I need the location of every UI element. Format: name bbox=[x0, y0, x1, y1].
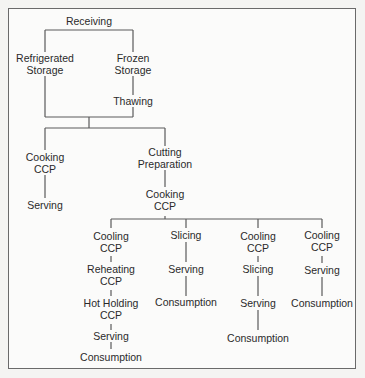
node-label: Storage bbox=[16, 64, 74, 76]
node-label: CCP bbox=[304, 241, 340, 253]
node-label: CCP bbox=[93, 242, 129, 254]
node-b3-cooling-ccp: Cooling CCP bbox=[239, 230, 277, 254]
node-label: Hot Holding bbox=[84, 297, 139, 309]
node-label: Cooling bbox=[304, 229, 340, 241]
node-b1-hot-holding-ccp: Hot Holding CCP bbox=[83, 297, 140, 321]
node-label: Cooling bbox=[240, 230, 276, 242]
node-label: Storage bbox=[115, 64, 152, 76]
node-label: CCP bbox=[26, 163, 65, 175]
node-label: CCP bbox=[146, 200, 185, 212]
node-frozen-storage: Frozen Storage bbox=[114, 52, 153, 76]
node-label: Cooling bbox=[93, 230, 129, 242]
node-b2-consumption: Consumption bbox=[154, 296, 218, 308]
node-cutting-preparation: Cutting Preparation bbox=[137, 146, 193, 170]
node-b3-consumption: Consumption bbox=[226, 332, 290, 344]
node-label: CCP bbox=[240, 242, 276, 254]
node-label: Cooking bbox=[146, 188, 185, 200]
node-b4-serving: Serving bbox=[303, 264, 341, 276]
node-label: Consumption bbox=[227, 332, 289, 344]
node-label: Cooking bbox=[26, 151, 65, 163]
node-label: Reheating bbox=[87, 263, 135, 275]
node-label: Receiving bbox=[66, 15, 112, 27]
node-label: Consumption bbox=[80, 351, 142, 363]
node-refrigerated-storage: Refrigerated Storage bbox=[15, 52, 75, 76]
node-label: Preparation bbox=[138, 158, 192, 170]
node-cooking-ccp-left: Cooking CCP bbox=[25, 151, 66, 175]
node-label: Frozen bbox=[115, 52, 152, 64]
node-label: Slicing bbox=[171, 229, 202, 241]
node-b1-consumption: Consumption bbox=[79, 351, 143, 363]
node-b4-consumption: Consumption bbox=[290, 297, 354, 309]
node-thawing: Thawing bbox=[112, 95, 154, 107]
node-label: Thawing bbox=[113, 95, 153, 107]
node-label: Refrigerated bbox=[16, 52, 74, 64]
node-label: Slicing bbox=[243, 263, 274, 275]
node-label: Cutting bbox=[138, 146, 192, 158]
node-b1-serving: Serving bbox=[92, 330, 130, 342]
node-b2-serving: Serving bbox=[167, 263, 205, 275]
node-label: Consumption bbox=[291, 297, 353, 309]
node-serving-left: Serving bbox=[26, 199, 64, 211]
node-b4-cooling-ccp: Cooling CCP bbox=[303, 229, 341, 253]
node-receiving: Receiving bbox=[65, 15, 113, 27]
node-b1-cooling-ccp: Cooling CCP bbox=[92, 230, 130, 254]
node-label: Consumption bbox=[155, 296, 217, 308]
node-cooking-ccp-mid: Cooking CCP bbox=[145, 188, 186, 212]
node-label: Serving bbox=[93, 330, 129, 342]
node-b3-serving: Serving bbox=[239, 297, 277, 309]
node-b3-slicing: Slicing bbox=[242, 263, 275, 275]
node-label: Serving bbox=[240, 297, 276, 309]
node-label: Serving bbox=[27, 199, 63, 211]
node-b1-reheating-ccp: Reheating CCP bbox=[86, 263, 136, 287]
node-label: Serving bbox=[304, 264, 340, 276]
node-label: Serving bbox=[168, 263, 204, 275]
node-b2-slicing: Slicing bbox=[170, 229, 203, 241]
node-label: CCP bbox=[84, 309, 139, 321]
node-label: CCP bbox=[87, 275, 135, 287]
